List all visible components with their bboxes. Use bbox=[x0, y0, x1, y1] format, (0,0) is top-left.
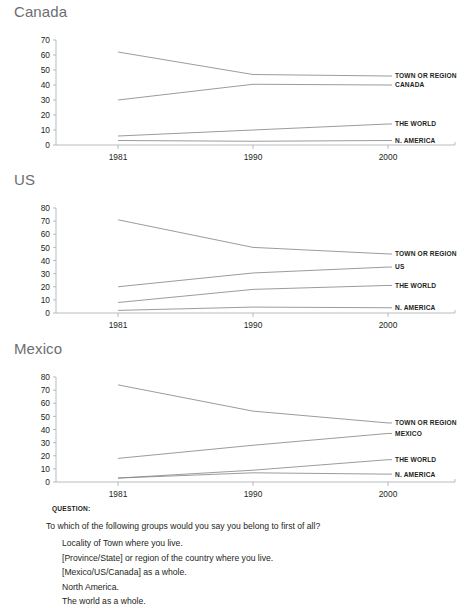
svg-text:2000: 2000 bbox=[379, 489, 398, 499]
svg-text:80: 80 bbox=[41, 372, 51, 382]
svg-text:60: 60 bbox=[41, 229, 51, 239]
question-options-list: Locality of Town where you live. [Provin… bbox=[62, 536, 273, 608]
svg-text:US: US bbox=[395, 263, 405, 270]
svg-text:50: 50 bbox=[41, 65, 51, 75]
svg-text:1981: 1981 bbox=[109, 320, 128, 330]
plot-area-canada: 010203040506070198119902000TOWN OR REGIO… bbox=[0, 0, 476, 172]
svg-text:1981: 1981 bbox=[109, 489, 128, 499]
svg-text:30: 30 bbox=[41, 438, 51, 448]
svg-text:10: 10 bbox=[41, 125, 51, 135]
line-chart-canada: 010203040506070198119902000TOWN OR REGIO… bbox=[0, 0, 476, 172]
svg-text:2000: 2000 bbox=[379, 152, 398, 162]
chart-panel-us: US 01020304050607080198119902000TOWN OR … bbox=[0, 168, 476, 338]
svg-text:1990: 1990 bbox=[244, 152, 263, 162]
question-heading: QUESTION: bbox=[52, 505, 90, 512]
svg-text:20: 20 bbox=[41, 110, 51, 120]
svg-text:THE WORLD: THE WORLD bbox=[395, 282, 436, 289]
svg-text:TOWN OR REGION: TOWN OR REGION bbox=[395, 250, 457, 257]
svg-text:10: 10 bbox=[41, 464, 51, 474]
svg-text:TOWN OR REGION: TOWN OR REGION bbox=[395, 419, 457, 426]
svg-text:70: 70 bbox=[41, 216, 51, 226]
svg-text:40: 40 bbox=[41, 425, 51, 435]
svg-text:0: 0 bbox=[45, 477, 50, 487]
question-option: The world as a whole. bbox=[62, 594, 273, 608]
svg-text:0: 0 bbox=[45, 308, 50, 318]
svg-text:60: 60 bbox=[41, 398, 51, 408]
plot-area-mexico: 01020304050607080198119902000TOWN OR REG… bbox=[0, 337, 476, 509]
question-option: Locality of Town where you live. bbox=[62, 536, 273, 551]
svg-text:20: 20 bbox=[41, 282, 51, 292]
svg-text:1990: 1990 bbox=[244, 320, 263, 330]
svg-text:40: 40 bbox=[41, 80, 51, 90]
svg-text:N. AMERICA: N. AMERICA bbox=[395, 304, 436, 311]
svg-text:50: 50 bbox=[41, 412, 51, 422]
line-chart-us: 01020304050607080198119902000TOWN OR REG… bbox=[0, 168, 476, 340]
svg-text:40: 40 bbox=[41, 256, 51, 266]
chart-panel-canada: Canada 010203040506070198119902000TOWN O… bbox=[0, 0, 476, 172]
question-lead-text: To which of the following groups would y… bbox=[46, 521, 320, 531]
svg-text:50: 50 bbox=[41, 243, 51, 253]
svg-text:30: 30 bbox=[41, 269, 51, 279]
svg-text:0: 0 bbox=[45, 140, 50, 150]
svg-text:20: 20 bbox=[41, 451, 51, 461]
svg-text:70: 70 bbox=[41, 385, 51, 395]
svg-text:2000: 2000 bbox=[379, 320, 398, 330]
svg-text:MEXICO: MEXICO bbox=[395, 430, 422, 437]
svg-text:30: 30 bbox=[41, 95, 51, 105]
svg-text:60: 60 bbox=[41, 50, 51, 60]
svg-text:N. AMERICA: N. AMERICA bbox=[395, 137, 436, 144]
svg-text:10: 10 bbox=[41, 295, 51, 305]
svg-text:1990: 1990 bbox=[244, 489, 263, 499]
line-chart-mexico: 01020304050607080198119902000TOWN OR REG… bbox=[0, 337, 476, 509]
svg-text:80: 80 bbox=[41, 203, 51, 213]
question-option: North America. bbox=[62, 580, 273, 595]
svg-text:1981: 1981 bbox=[109, 152, 128, 162]
svg-text:THE WORLD: THE WORLD bbox=[395, 120, 436, 127]
plot-area-us: 01020304050607080198119902000TOWN OR REG… bbox=[0, 168, 476, 340]
svg-text:CANADA: CANADA bbox=[395, 81, 425, 88]
svg-text:TOWN OR REGION: TOWN OR REGION bbox=[395, 72, 457, 79]
svg-text:N. AMERICA: N. AMERICA bbox=[395, 471, 436, 478]
svg-text:THE WORLD: THE WORLD bbox=[395, 456, 436, 463]
chart-panel-mexico: Mexico 01020304050607080198119902000TOWN… bbox=[0, 337, 476, 509]
question-option: [Province/State] or region of the countr… bbox=[62, 551, 273, 566]
question-option: [Mexico/US/Canada] as a whole. bbox=[62, 565, 273, 580]
svg-text:70: 70 bbox=[41, 35, 51, 45]
